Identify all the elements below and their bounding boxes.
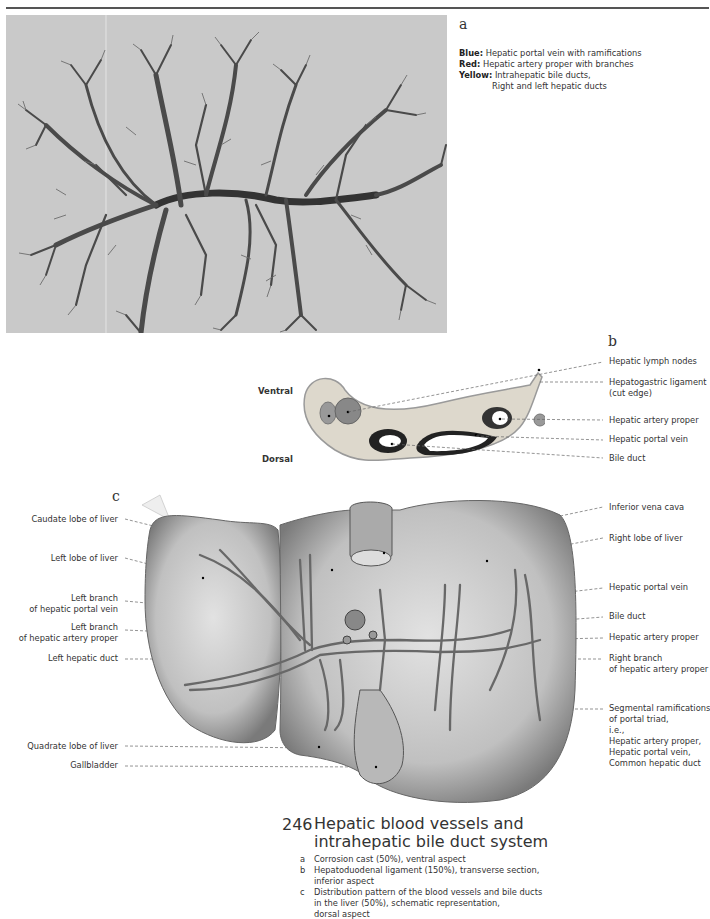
caption-text: in the liver (50%), schematic representa… <box>300 898 548 909</box>
panel-a-color-legend: Blue: Hepatic portal vein with ramificat… <box>459 48 699 92</box>
caption-letter: a <box>300 854 314 865</box>
panel-a-letter: a <box>459 16 467 32</box>
legend-key-red: Red: <box>459 59 480 69</box>
label-line: Hepatic portal vein, <box>609 747 710 758</box>
legend-key-yellow: Yellow: <box>459 70 492 80</box>
hepatoduodenal-ligament-section <box>290 365 545 475</box>
figure-title-line: intrahepatic bile duct system <box>314 833 548 851</box>
label-line: Right branch <box>609 653 708 664</box>
caption-text: dorsal aspect <box>300 909 548 919</box>
legend-row-blue: Blue: Hepatic portal vein with ramificat… <box>459 48 699 59</box>
caption-text: inferior aspect <box>300 876 548 887</box>
label-segmental-ramifications: Segmental ramifications of portal triad,… <box>609 703 710 769</box>
caption-letter: c <box>300 887 314 898</box>
caption-text: Distribution pattern of the blood vessel… <box>314 887 542 897</box>
label-c-hepatic-artery-proper: Hepatic artery proper <box>609 632 699 643</box>
label-b-hepatic-artery-proper: Hepatic artery proper <box>609 415 699 426</box>
figure-caption-items: aCorrosion cast (50%), ventral aspect bH… <box>300 854 548 919</box>
label-left-hepatic-duct: Left hepatic duct <box>48 653 118 664</box>
label-quadrate-lobe: Quadrate lobe of liver <box>27 741 118 752</box>
figure-caption: 246 Hepatic blood vessels and intrahepat… <box>282 815 548 919</box>
label-line: of hepatic artery proper <box>19 633 118 644</box>
label-line: Segmental ramifications <box>609 703 710 714</box>
panel-b-letter: b <box>608 333 617 349</box>
label-c-bile-duct: Bile duct <box>609 611 645 622</box>
label-c-hepatic-portal-vein: Hepatic portal vein <box>609 582 688 593</box>
label-right-lobe: Right lobe of liver <box>609 533 683 544</box>
ventral-label: Ventral <box>258 386 293 396</box>
label-line: Left branch <box>29 593 118 604</box>
caption-letter: b <box>300 865 314 876</box>
corrosion-cast-photo <box>6 15 447 333</box>
legend-key-blue: Blue: <box>459 48 483 58</box>
label-line: Left branch <box>19 622 118 633</box>
legend-text-blue: Hepatic portal vein with ramifications <box>486 48 642 58</box>
label-hepatic-lymph-nodes: Hepatic lymph nodes <box>609 356 697 367</box>
label-line: Common hepatic duct <box>609 758 710 769</box>
legend-row-yellow-cont: Right and left hepatic ducts <box>459 81 699 92</box>
label-b-bile-duct: Bile duct <box>609 453 645 464</box>
figure-heading: 246 Hepatic blood vessels and intrahepat… <box>282 815 548 851</box>
caption-item-c: cDistribution pattern of the blood vesse… <box>300 887 548 898</box>
liver-dorsal-illustration <box>140 490 580 815</box>
caption-text: Corrosion cast (50%), ventral aspect <box>314 854 466 864</box>
label-caudate-lobe: Caudate lobe of liver <box>31 514 118 525</box>
label-inferior-vena-cava: Inferior vena cava <box>609 502 684 513</box>
figure-title-line: Hepatic blood vessels and <box>314 815 548 833</box>
label-line: of portal triad, <box>609 714 710 725</box>
dorsal-label: Dorsal <box>262 454 293 464</box>
label-right-branch-artery: Right branch of hepatic artery proper <box>609 653 708 675</box>
panel-c-letter: c <box>112 488 120 504</box>
label-line: i.e., <box>609 725 710 736</box>
legend-text-yellow: Intrahepatic bile ducts, <box>495 70 591 80</box>
legend-row-yellow: Yellow: Intrahepatic bile ducts, <box>459 70 699 81</box>
page-top-rule <box>6 7 709 9</box>
legend-row-red: Red: Hepatic artery proper with branches <box>459 59 699 70</box>
label-hepatogastric-ligament: Hepatogastric ligament <box>609 377 707 388</box>
label-b-hepatic-portal-vein: Hepatic portal vein <box>609 434 688 445</box>
label-left-branch-portal-vein: Left branch of hepatic portal vein <box>29 593 118 615</box>
figure-title: Hepatic blood vessels and intrahepatic b… <box>314 815 548 851</box>
label-line: of hepatic artery proper <box>609 664 708 675</box>
caption-item-b: bHepatoduodenal ligament (150%), transve… <box>300 865 548 876</box>
figure-number: 246 <box>282 815 314 851</box>
legend-text-yellow-cont: Right and left hepatic ducts <box>492 81 607 91</box>
caption-text: Hepatoduodenal ligament (150%), transver… <box>314 865 539 875</box>
caption-item-a: aCorrosion cast (50%), ventral aspect <box>300 854 548 865</box>
legend-text-red: Hepatic artery proper with branches <box>483 59 634 69</box>
label-line: Hepatic artery proper, <box>609 736 710 747</box>
label-cut-edge: (cut edge) <box>609 388 652 399</box>
label-gallbladder: Gallbladder <box>70 760 118 771</box>
corrosion-cast-illustration <box>6 15 447 333</box>
label-left-branch-artery: Left branch of hepatic artery proper <box>19 622 118 644</box>
label-line: of hepatic portal vein <box>29 604 118 615</box>
label-left-lobe: Left lobe of liver <box>51 553 118 564</box>
